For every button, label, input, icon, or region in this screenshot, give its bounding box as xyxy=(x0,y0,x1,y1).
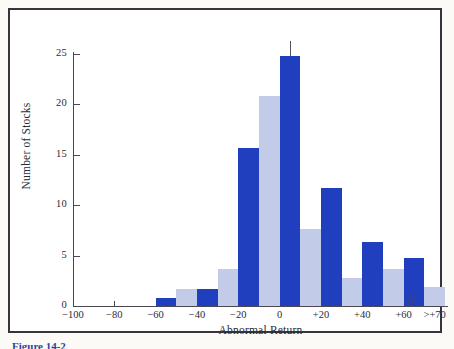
histogram-bar xyxy=(383,269,404,306)
histogram-bar xyxy=(218,269,239,306)
histogram-bar xyxy=(280,56,301,306)
histogram-bar xyxy=(238,148,259,306)
y-tick xyxy=(74,306,80,307)
histogram-bar xyxy=(300,229,321,306)
histogram-bar xyxy=(197,289,218,306)
y-tick-label: 20 xyxy=(45,97,67,108)
histogram-bar xyxy=(362,242,383,307)
y-axis-title: Number of Stocks xyxy=(20,56,32,236)
histogram-bar xyxy=(156,298,177,306)
y-tick-label: 25 xyxy=(45,47,67,58)
y-tick-label: 5 xyxy=(45,249,67,260)
histogram-bar xyxy=(342,278,363,306)
figure-histogram: 0510152025 −100−80−60−40−200+20+40+60>+7… xyxy=(0,0,454,349)
histogram-bar xyxy=(424,287,445,306)
x-tick-label: >+70 xyxy=(410,309,454,320)
y-tick-label: 15 xyxy=(45,148,67,159)
histogram-bar xyxy=(259,96,280,306)
axis-break-icon xyxy=(405,296,419,308)
histogram-bar xyxy=(321,188,342,306)
x-axis-title: Abnormal Return xyxy=(73,324,448,336)
bar-series xyxy=(73,54,445,306)
x-axis-line xyxy=(73,306,448,307)
peak-marker-line xyxy=(290,41,291,56)
y-tick-label: 10 xyxy=(45,198,67,209)
figure-frame: 0510152025 −100−80−60−40−200+20+40+60>+7… xyxy=(8,8,442,333)
histogram-bar xyxy=(176,289,197,306)
figure-caption: Figure 14-2 xyxy=(12,340,66,349)
